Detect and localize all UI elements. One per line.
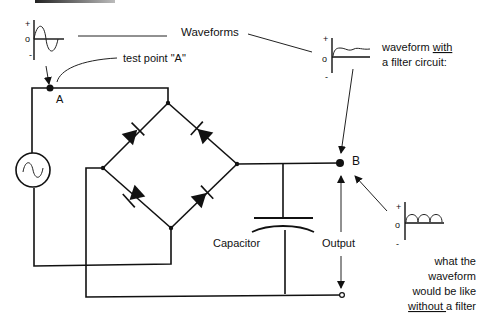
arrow-filtered-to-b [341,69,353,153]
test-point-leader [57,58,117,82]
svg-text:+: + [25,19,30,29]
bridge-left-node [101,166,105,170]
svg-text:o: o [322,54,327,64]
output-label: Output [322,237,355,249]
arrow-to-a [46,66,49,84]
test-point-label: test point "A" [123,52,186,64]
circuit-wires [32,88,341,297]
svg-text:+: + [323,34,328,44]
filtered-waveform-icon: + o - [322,34,370,82]
ac-source-icon [16,153,50,187]
waveforms-title: Waveforms [181,26,239,38]
svg-text:o: o [25,34,30,44]
svg-text:+: + [396,202,401,212]
bridge-bottom-node [169,226,173,230]
svg-text:-: - [396,239,399,249]
node-b-label: B [352,154,360,168]
unfiltered-caption-line3: would be like [411,285,476,297]
node-a-dot [47,85,54,92]
output-negative-terminal [340,293,345,298]
filtered-caption: waveform with [381,41,452,53]
svg-text:o: o [395,220,400,230]
arrow-rectified-to-b [355,176,387,211]
unfiltered-caption-line2: waveform [427,270,476,282]
waveforms-leader-right [248,34,312,52]
bridge-top-node [166,101,170,105]
svg-text:-: - [29,50,32,60]
capacitor-icon [252,218,314,232]
input-waveform-icon: + o - [25,19,64,60]
diode-upper-left-icon [121,123,144,146]
bridge-rectifier-diagram: + o - Waveforms test point "A" + o - wav… [0,0,487,324]
node-b-terminal [336,159,344,167]
capacitor-label: Capacitor [213,237,260,249]
filtered-caption-line2: a filter circuit: [382,56,447,68]
node-a-label: A [56,93,64,105]
unfiltered-caption-line4: without a filter [407,300,476,312]
unfiltered-caption-line1: what the [433,255,476,267]
scan-edge-bar [35,0,115,3]
rectified-waveform-icon: + o - [395,202,444,249]
bridge-right-node [235,162,239,166]
svg-text:-: - [325,72,328,82]
